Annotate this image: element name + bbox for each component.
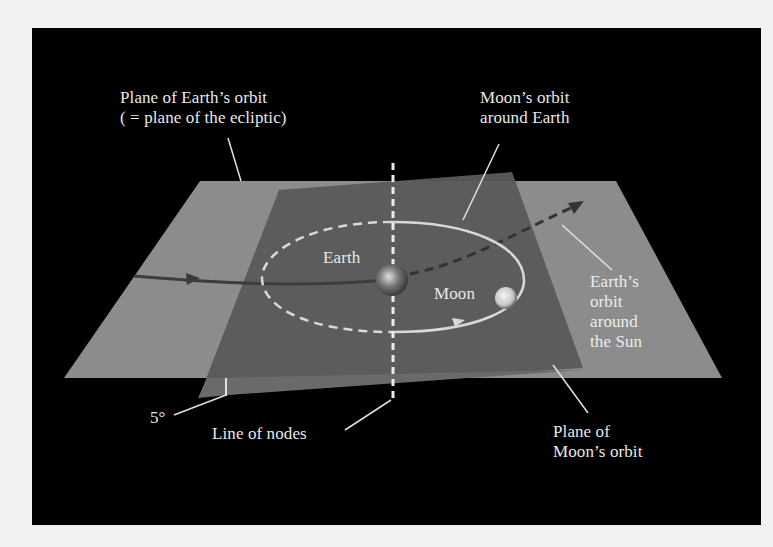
label-earth-orbit-sun: Earth’s orbit around the Sun bbox=[590, 272, 642, 352]
label-line-of-nodes: Line of nodes bbox=[212, 424, 307, 444]
label-ecliptic-plane: Plane of Earth’s orbit ( = plane of the … bbox=[120, 88, 287, 128]
label-earth: Earth bbox=[323, 248, 360, 268]
earth-icon bbox=[376, 264, 408, 296]
label-moon-orbit: Moon’s orbit around Earth bbox=[480, 88, 570, 128]
label-moon-plane: Plane of Moon’s orbit bbox=[553, 422, 643, 462]
leader-5-degrees bbox=[174, 395, 226, 415]
label-5-degrees: 5° bbox=[150, 408, 166, 428]
moon-icon bbox=[495, 287, 517, 309]
leader-line-of-nodes bbox=[345, 400, 391, 430]
leader-ecliptic bbox=[228, 138, 241, 181]
orbital-planes-diagram bbox=[0, 0, 773, 547]
label-moon: Moon bbox=[434, 284, 475, 304]
